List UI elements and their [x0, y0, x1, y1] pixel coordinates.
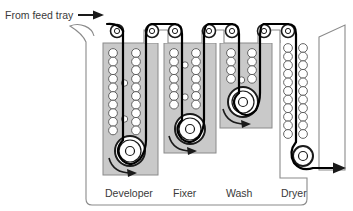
exit-arrow — [333, 163, 346, 174]
fixer-turnaround-roller — [175, 114, 205, 144]
developer-turnaround-roller — [115, 136, 145, 166]
arrow-right-icon — [93, 11, 104, 20]
dryer-exit-roller — [293, 146, 313, 166]
processor-schematic: From feed tray Developer Fixer Wash Drye… — [0, 0, 353, 211]
fixer-label: Fixer — [173, 187, 197, 199]
feed-arrow — [78, 11, 104, 20]
film-processor-diagram: From feed tray Developer Fixer Wash Drye… — [0, 0, 353, 211]
exit-guide-panel — [319, 25, 345, 170]
feed-deflector-and-left-wall — [70, 25, 94, 196]
developer-label: Developer — [105, 187, 153, 199]
wash-label: Wash — [226, 187, 253, 199]
dryer-label: Dryer — [281, 187, 307, 199]
arrow-right-icon — [333, 163, 346, 174]
feed-tray-label: From feed tray — [5, 9, 74, 21]
